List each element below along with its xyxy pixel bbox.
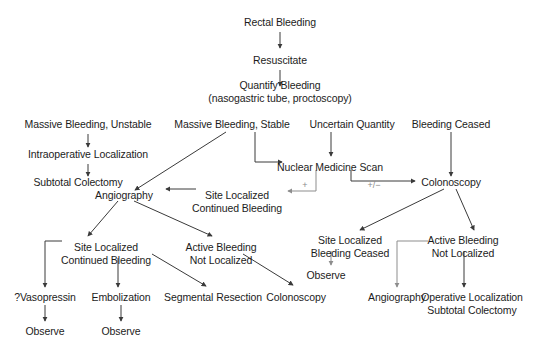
node-label-line1: Active Bleeding bbox=[186, 241, 257, 253]
node-quantify-bleeding: Quantify Bleeding(nasogastric tube, proc… bbox=[208, 79, 351, 104]
node-label-line2: Subtotal Colectomy bbox=[421, 304, 523, 317]
node-angiography-right: Angiography bbox=[368, 291, 426, 304]
node-label-line1: Intraoperative Localization bbox=[28, 148, 148, 160]
node-label-line1: Segmental Resection bbox=[164, 291, 262, 303]
edge-active-bleeding-right-to-angiography bbox=[397, 241, 428, 287]
flowchart-canvas: Rectal BleedingResuscitateQuantify Bleed… bbox=[0, 0, 544, 349]
node-label-line1: Colonoscopy bbox=[421, 176, 481, 188]
node-label-line1: Observe bbox=[102, 325, 141, 337]
node-resuscitate: Resuscitate bbox=[253, 54, 307, 67]
node-nuclear-medicine-scan: Nuclear Medicine Scan bbox=[277, 161, 383, 174]
node-label-line2: Not Localized bbox=[428, 247, 499, 260]
node-label-line1: Massive Bleeding, Stable bbox=[174, 118, 290, 130]
node-label-line1: Rectal Bleeding bbox=[244, 16, 316, 28]
node-label-line1: Uncertain Quantity bbox=[309, 118, 394, 130]
node-observe-ceased: Observe bbox=[307, 269, 346, 282]
node-label-line1: Operative Localization bbox=[421, 291, 523, 303]
node-bleeding-ceased: Bleeding Ceased bbox=[412, 118, 490, 131]
edge-angiography-to-site-localized-low bbox=[88, 201, 118, 236]
edge-colonoscopy-to-active-bleeding-right bbox=[456, 189, 474, 230]
node-label-line1: Massive Bleeding, Unstable bbox=[25, 118, 152, 130]
node-subtotal-colectomy-left: Subtotal Colectomy bbox=[33, 176, 122, 189]
node-site-localized-bleeding-ceased: Site LocalizedBleeding Ceased bbox=[311, 234, 389, 259]
node-label-line1: Angiography bbox=[368, 291, 426, 303]
node-colonoscopy-right: Colonoscopy bbox=[421, 176, 481, 189]
node-intraoperative-localization: Intraoperative Localization bbox=[28, 148, 148, 161]
node-label-line1: Nuclear Medicine Scan bbox=[277, 161, 383, 173]
node-label-line1: Observe bbox=[307, 269, 346, 281]
node-label-line1: Resuscitate bbox=[253, 54, 307, 66]
node-label-line1: Colonoscopy bbox=[266, 291, 326, 303]
node-site-localized-continued-bleeding-low: Site LocalizedContinued Bleeding bbox=[61, 241, 151, 266]
node-massive-bleeding-unstable: Massive Bleeding, Unstable bbox=[25, 118, 152, 131]
node-vasopressin: ?Vasopressin bbox=[14, 291, 76, 304]
node-label-line1: Site Localized bbox=[318, 234, 382, 246]
node-observe-embolization: Observe bbox=[102, 325, 141, 338]
edge-colonoscopy-to-site-localized-ceased bbox=[360, 189, 444, 230]
node-segmental-resection: Segmental Resection bbox=[164, 291, 262, 304]
node-label-line2: Continued Bleeding bbox=[61, 254, 151, 267]
edge-label-plus-label: + bbox=[302, 180, 307, 190]
edge-stable-to-nuclear-scan bbox=[255, 132, 282, 162]
node-label-line2: Not Localized bbox=[186, 254, 257, 267]
node-label-line1: Subtotal Colectomy bbox=[33, 176, 122, 188]
node-label-line2: Bleeding Ceased bbox=[311, 247, 389, 260]
node-label-line2: (nasogastric tube, proctoscopy) bbox=[208, 92, 351, 105]
node-uncertain-quantity: Uncertain Quantity bbox=[309, 118, 394, 131]
node-observe-vasopressin: Observe bbox=[26, 325, 65, 338]
node-operative-localization: Operative LocalizationSubtotal Colectomy bbox=[421, 291, 523, 316]
edge-stable-to-angiography bbox=[135, 132, 226, 190]
node-site-localized-continued-bleeding-mid: Site LocalizedContinued Bleeding bbox=[192, 189, 282, 214]
node-colonoscopy-bottom: Colonoscopy bbox=[266, 291, 326, 304]
node-label-line1: Site Localized bbox=[205, 189, 269, 201]
node-label-line1: Quantify Bleeding bbox=[239, 79, 320, 91]
node-active-bleeding-not-localized-mid: Active BleedingNot Localized bbox=[186, 241, 257, 266]
node-angiography-mid: Angiography bbox=[95, 189, 153, 202]
node-label-line1: Embolization bbox=[92, 291, 151, 303]
edge-label-plus-minus-label: +/− bbox=[367, 180, 380, 190]
node-label-line1: Observe bbox=[26, 325, 65, 337]
node-active-bleeding-not-localized-right: Active BleedingNot Localized bbox=[428, 234, 499, 259]
node-rectal-bleeding: Rectal Bleeding bbox=[244, 16, 316, 29]
node-label-line1: Site Localized bbox=[74, 241, 138, 253]
node-label-line1: Angiography bbox=[95, 189, 153, 201]
node-massive-bleeding-stable: Massive Bleeding, Stable bbox=[174, 118, 290, 131]
node-label-line1: Bleeding Ceased bbox=[412, 118, 490, 130]
edge-site-localized-low-to-vasopressin bbox=[45, 241, 62, 287]
node-label-line1: ?Vasopressin bbox=[14, 291, 76, 303]
node-embolization: Embolization bbox=[92, 291, 151, 304]
node-label-line2: Continued Bleeding bbox=[192, 202, 282, 215]
node-label-line1: Active Bleeding bbox=[428, 234, 499, 246]
